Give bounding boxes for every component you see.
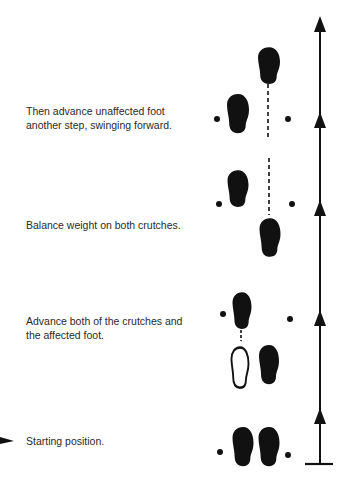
crutch-tip-icon <box>217 449 223 455</box>
foot-affected-icon <box>228 170 249 207</box>
crutch-tip-icon <box>285 452 291 458</box>
arrowhead-icon <box>314 200 326 216</box>
step-3-figure <box>216 158 295 257</box>
crutch-tip-icon <box>220 311 226 317</box>
step-1-figure <box>217 427 291 466</box>
foot-affected-icon <box>233 292 252 329</box>
foot-unaffected-icon <box>258 47 280 84</box>
foot-unaffected-icon <box>259 345 279 384</box>
crutch-tip-icon <box>289 201 295 207</box>
arrowhead-icon <box>314 408 326 424</box>
crutch-tip-icon <box>214 116 220 122</box>
arrowhead-icon <box>314 310 326 326</box>
foot-affected-icon <box>227 94 249 133</box>
gait-diagram <box>0 0 347 484</box>
step-4-figure <box>214 47 291 140</box>
foot-unaffected-icon <box>260 218 281 256</box>
crutch-tip-icon <box>287 316 293 322</box>
progression-arrow <box>305 16 333 464</box>
foot-previous-position-icon <box>232 347 249 387</box>
arrowhead-icon <box>314 112 326 128</box>
foot-left-icon <box>233 427 254 466</box>
step-2-figure <box>220 292 293 388</box>
pointer-arrow-icon <box>0 437 14 444</box>
arrowhead-icon <box>314 16 326 32</box>
crutch-tip-icon <box>216 201 222 207</box>
foot-right-icon <box>259 427 280 466</box>
crutch-tip-icon <box>285 116 291 122</box>
